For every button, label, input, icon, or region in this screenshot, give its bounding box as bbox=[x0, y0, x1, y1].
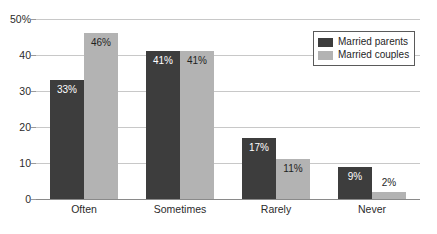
bar-often-married-couples[interactable] bbox=[84, 33, 118, 199]
bar-value-label: 11% bbox=[276, 164, 310, 174]
y-tick-label-40: 40 bbox=[1, 50, 31, 61]
legend-swatch-icon bbox=[318, 38, 333, 47]
bar-value-label: 46% bbox=[84, 38, 118, 48]
bar-group-rarely: 17%11% bbox=[242, 19, 310, 199]
bar-group-sometimes: 41%41% bbox=[146, 19, 214, 199]
x-axis: OftenSometimesRarelyNever bbox=[36, 204, 420, 224]
bar-sometimes-married-couples[interactable] bbox=[180, 51, 214, 199]
bar-value-label: 33% bbox=[50, 85, 84, 95]
x-tick-label-never: Never bbox=[317, 204, 427, 215]
bar-value-label: 41% bbox=[146, 56, 180, 66]
y-tick-label-30: 30 bbox=[1, 86, 31, 97]
y-tick-label-50: 50% bbox=[1, 14, 31, 25]
x-tick-label-rarely: Rarely bbox=[221, 204, 331, 215]
bar-sometimes-married-parents[interactable] bbox=[146, 51, 180, 199]
x-tick-label-sometimes: Sometimes bbox=[125, 204, 235, 215]
bar-often-married-parents[interactable] bbox=[50, 80, 84, 199]
chart-legend: Married parentsMarried couples bbox=[313, 31, 415, 66]
bar-group-often: 33%46% bbox=[50, 19, 118, 199]
y-axis: 01020304050% bbox=[0, 19, 31, 199]
legend-item-married-parents[interactable]: Married parents bbox=[318, 36, 409, 48]
y-tick-label-20: 20 bbox=[1, 122, 31, 133]
x-tick-label-often: Often bbox=[29, 204, 139, 215]
bar-value-label: 41% bbox=[180, 56, 214, 66]
bar-value-label: 17% bbox=[242, 143, 276, 153]
y-tick-label-10: 10 bbox=[1, 158, 31, 169]
bar-never-married-couples[interactable] bbox=[372, 192, 406, 199]
legend-swatch-icon bbox=[318, 51, 333, 60]
bar-value-label: 2% bbox=[372, 178, 406, 188]
legend-item-married-couples[interactable]: Married couples bbox=[318, 49, 409, 61]
x-axis-baseline bbox=[36, 199, 420, 200]
legend-label: Married couples bbox=[338, 50, 409, 60]
bar-value-label: 9% bbox=[338, 172, 372, 182]
bar-chart: 01020304050% 33%46%41%41%17%11%9%2% Ofte… bbox=[0, 0, 437, 234]
y-tick-label-0: 0 bbox=[1, 194, 31, 205]
legend-label: Married parents bbox=[338, 37, 408, 47]
